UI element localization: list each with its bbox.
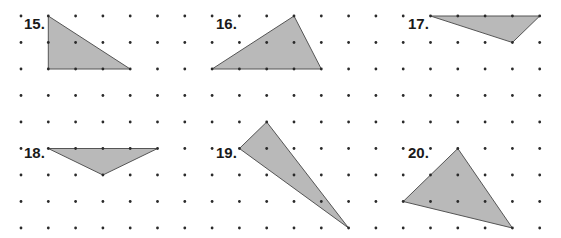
grid-dot [211,41,214,44]
grid-dot [538,147,541,150]
grid-dot [538,68,541,71]
grid-dot [211,121,214,124]
grid-dot [402,68,405,71]
grid-dot [20,41,23,44]
grid-dot [238,15,241,18]
grid-dot [156,41,159,44]
grid-dot [102,200,105,203]
grid-dot [484,41,487,44]
grid-dot [484,174,487,177]
grid-dot [293,41,296,44]
grid-dot [402,15,405,18]
grid-dot [347,68,350,71]
grid-dot [429,121,432,124]
grid-dot [429,147,432,150]
grid-dot [456,200,459,203]
grid-dot [320,227,323,230]
grid-dot [347,227,350,230]
grid-dot [429,227,432,230]
grid-dot [402,94,405,97]
grid-dot [293,147,296,150]
grid-dot [320,41,323,44]
grid-dot [456,227,459,230]
grid-dot [347,147,350,150]
grid-dot [402,227,405,230]
grid-dot [211,227,214,230]
grid-dot [47,94,50,97]
grid-dot [484,15,487,18]
grid-dot [102,227,105,230]
grid-dot [456,174,459,177]
problem-labels: 15.16.17.18.19.20. [24,15,429,161]
grid-dot [74,227,77,230]
grid-dot [484,121,487,124]
grid-dot [538,174,541,177]
grid-dot [293,68,296,71]
grid-dot [156,94,159,97]
grid-dot [238,200,241,203]
grid-dot [375,15,378,18]
grid-dot [238,147,241,150]
grid-dot [511,227,514,230]
grid-dot [74,200,77,203]
grid-dot [156,174,159,177]
grid-dot [402,200,405,203]
grid-dot [347,94,350,97]
grid-dot [47,121,50,124]
grid-dot [402,121,405,124]
grid-dot [293,94,296,97]
grid-dot [320,121,323,124]
grid-dot [102,15,105,18]
grid-dot [129,147,132,150]
grid-dot [129,227,132,230]
grid-dot [211,68,214,71]
grid-dot [238,121,241,124]
grid-dot [429,15,432,18]
grid-dot [538,121,541,124]
problem-number-label: 18. [24,144,45,161]
grid-dot [74,94,77,97]
grid-dot [183,227,186,230]
grid-dot [538,227,541,230]
grid-dot [156,227,159,230]
grid-dot [375,68,378,71]
grid-dot [375,41,378,44]
grid-dot [320,200,323,203]
grid-dot [238,41,241,44]
grid-dot [20,15,23,18]
grid-dot [238,227,241,230]
grid-dot [102,174,105,177]
grid-dot [375,121,378,124]
grid-dot [484,68,487,71]
grid-dot [456,121,459,124]
grid-dot [183,94,186,97]
grid-dot [183,41,186,44]
grid-dot [375,174,378,177]
grid-dot [183,147,186,150]
grid-dot [511,174,514,177]
grid-dot [211,147,214,150]
grid-dot [347,174,350,177]
grid-dot [47,200,50,203]
grid-dot [456,15,459,18]
problem-number-label: 19. [216,144,237,161]
grid-dot [47,174,50,177]
grid-dot [347,200,350,203]
grid-dot [511,41,514,44]
grid-dot [347,121,350,124]
grid-dot [484,94,487,97]
grid-dot [429,68,432,71]
grid-dot [183,200,186,203]
grid-dot [347,41,350,44]
grid-dot [375,200,378,203]
grid-dot [211,15,214,18]
grid-dot [102,94,105,97]
grid-dot [102,68,105,71]
problem-number-label: 16. [216,15,237,32]
grid-dot [429,41,432,44]
grid-dot [265,68,268,71]
grid-dot [293,200,296,203]
grid-dot [265,94,268,97]
grid-dot [156,121,159,124]
grid-dot [74,68,77,71]
